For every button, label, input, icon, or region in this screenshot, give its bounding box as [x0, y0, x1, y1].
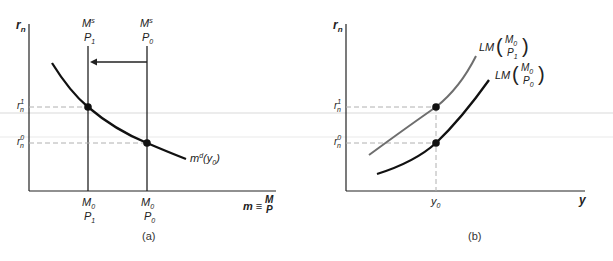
supply-old-label: Ms	[140, 17, 153, 29]
tick-m0-p1: M0	[82, 196, 95, 210]
demand-label: md(y0)	[190, 152, 220, 166]
x-axis-label: y	[578, 193, 587, 207]
lm-old-label: LM ( M0 P0 )	[495, 62, 545, 88]
svg-text:(: (	[496, 35, 503, 57]
svg-text:n: n	[20, 142, 24, 149]
svg-text:P1: P1	[84, 31, 95, 45]
svg-text:P1: P1	[84, 210, 95, 224]
lm-new-label: LM ( M0 P1 )	[479, 34, 529, 60]
svg-text:P0: P0	[523, 75, 534, 88]
equilibrium-point-new	[432, 103, 440, 111]
tick-y0: y0	[430, 195, 441, 209]
caption-a: (a)	[142, 230, 155, 242]
equilibrium-point-new	[84, 103, 92, 111]
tick-m0-p0: M0	[141, 196, 154, 210]
svg-text:M0: M0	[505, 34, 517, 47]
svg-text:P0: P0	[142, 31, 153, 45]
equilibrium-point-old	[432, 139, 440, 147]
panel-a: rn Ms P1 Ms P0 r1 n r0 n md(y0) M0 P1 M0…	[16, 17, 276, 242]
lm-curve-new	[369, 56, 476, 155]
arrowhead-icon	[90, 59, 97, 66]
svg-text:LM: LM	[479, 41, 495, 53]
svg-text:n: n	[20, 106, 24, 113]
svg-text:LM: LM	[495, 69, 511, 81]
lm-curve-old	[377, 80, 489, 174]
money-demand-curve	[52, 63, 186, 159]
panel-b: rn r1 n r0 n LM ( M0 P1 ) LM ( M0 P0 ) y…	[333, 18, 587, 242]
svg-text:P: P	[266, 204, 273, 215]
x-axis-label: m ≡	[243, 200, 262, 212]
caption-b: (b)	[468, 230, 481, 242]
y-axis-label: rn	[16, 18, 26, 34]
svg-text:): )	[522, 35, 529, 57]
money-market-lm-diagram: rn Ms P1 Ms P0 r1 n r0 n md(y0) M0 P1 M0…	[0, 0, 613, 261]
svg-text:n: n	[337, 142, 341, 149]
equilibrium-point-old	[143, 139, 151, 147]
svg-text:P0: P0	[144, 210, 155, 224]
svg-text:P1: P1	[507, 47, 518, 60]
supply-new-label: Ms	[82, 17, 95, 29]
svg-text:M0: M0	[521, 62, 533, 75]
y-axis-label: rn	[333, 18, 343, 34]
svg-text:n: n	[337, 106, 341, 113]
svg-text:(: (	[512, 63, 519, 85]
svg-text:): )	[538, 63, 545, 85]
